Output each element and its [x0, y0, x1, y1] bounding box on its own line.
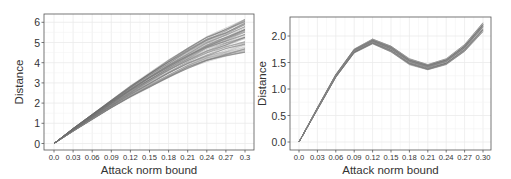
y-axis-label: Distance [256, 61, 268, 106]
x-axis-label: Attack norm bound [342, 164, 439, 176]
plot-frame [290, 17, 491, 150]
y-tick-label: 2.0 [271, 30, 286, 42]
right-chart: 0.00.030.060.090.120.150.180.210.240.270… [0, 0, 511, 179]
y-axis-ticks: 0.00.51.01.52.0 [271, 30, 290, 148]
x-tick-label: 0.21 [420, 153, 435, 162]
x-tick-label: 0.12 [365, 153, 380, 162]
x-tick-label: 0.09 [347, 153, 362, 162]
x-tick-label: 0.18 [402, 153, 417, 162]
x-tick-label: 0.24 [439, 153, 454, 162]
y-tick-label: 0.0 [271, 136, 286, 148]
x-tick-label: 0.30 [476, 153, 491, 162]
x-tick-label: 0.27 [457, 153, 472, 162]
x-axis-ticks: 0.00.030.060.090.120.150.180.210.240.270… [294, 150, 491, 162]
y-tick-label: 1.0 [271, 83, 286, 95]
x-tick-label: 0.03 [310, 153, 325, 162]
y-tick-label: 1.5 [271, 57, 286, 69]
gridlines [290, 17, 491, 150]
x-tick-label: 0.15 [384, 153, 399, 162]
x-tick-label: 0.0 [294, 153, 305, 162]
right-chart-svg: 0.00.030.060.090.120.150.180.210.240.270… [0, 0, 511, 179]
y-tick-label: 0.5 [271, 110, 286, 122]
x-tick-label: 0.06 [328, 153, 343, 162]
